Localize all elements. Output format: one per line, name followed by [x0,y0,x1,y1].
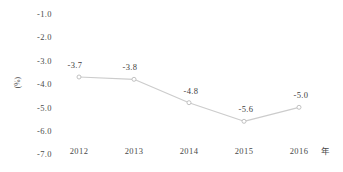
x-tick-label-2014: 2014 [180,146,199,156]
x-tick-label-2015: 2015 [235,146,254,156]
data-point-marker [297,105,301,109]
data-point-label: -5.0 [293,90,308,100]
x-tick-label-2012: 2012 [70,146,89,156]
data-point-label: -3.8 [122,62,137,72]
data-point-markers [77,75,301,123]
x-tick-label-2013: 2013 [125,146,144,156]
data-point-marker [132,77,136,81]
x-axis-unit-label: 年 [321,146,330,156]
data-point-label: -4.8 [183,86,198,96]
x-tick-label-2016: 2016 [290,146,309,156]
data-point-marker [77,75,81,79]
data-point-marker [187,101,191,105]
line-chart: (%) -1.0 -2.0 -3.0 -4.0 -5.0 -6.0 -7.0 -… [0,0,343,172]
data-point-marker [242,119,246,123]
data-point-label: -5.6 [238,104,253,114]
data-series-line [79,77,299,121]
data-point-label: -3.7 [67,60,82,70]
